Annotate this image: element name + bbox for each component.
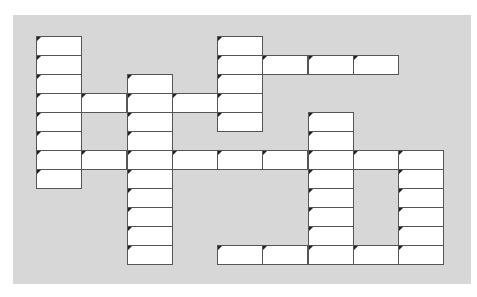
grid-cell[interactable] [127, 245, 173, 265]
grid-cell[interactable] [127, 207, 173, 227]
grid-cell[interactable] [127, 188, 173, 208]
grid-cell[interactable] [36, 74, 82, 94]
corner-marker-icon [309, 132, 313, 136]
corner-marker-icon [128, 94, 132, 98]
corner-marker-icon [128, 132, 132, 136]
corner-marker-icon [309, 170, 313, 174]
grid-cell[interactable] [398, 226, 444, 246]
corner-marker-icon [82, 94, 86, 98]
grid-cell[interactable] [217, 112, 263, 132]
corner-marker-icon [309, 227, 313, 231]
grid-cell[interactable] [127, 131, 173, 151]
corner-marker-icon [399, 189, 403, 193]
corner-marker-icon [218, 151, 222, 155]
grid-cell[interactable] [308, 188, 354, 208]
grid-cell[interactable] [127, 93, 173, 113]
grid-cell[interactable] [81, 93, 127, 113]
grid-cell[interactable] [398, 245, 444, 265]
corner-marker-icon [354, 246, 358, 250]
grid-cell[interactable] [353, 245, 399, 265]
corner-marker-icon [354, 151, 358, 155]
corner-marker-icon [37, 151, 41, 155]
grid-cell[interactable] [81, 150, 127, 170]
grid-cell[interactable] [127, 112, 173, 132]
corner-marker-icon [128, 151, 132, 155]
grid-cell[interactable] [172, 93, 218, 113]
corner-marker-icon [218, 56, 222, 60]
grid-cell[interactable] [262, 245, 308, 265]
grid-cell[interactable] [353, 150, 399, 170]
corner-marker-icon [128, 113, 132, 117]
grid-cell[interactable] [217, 74, 263, 94]
grid-cell[interactable] [308, 207, 354, 227]
grid-cell[interactable] [398, 188, 444, 208]
corner-marker-icon [128, 170, 132, 174]
grid-cell[interactable] [308, 226, 354, 246]
corner-marker-icon [128, 227, 132, 231]
corner-marker-icon [128, 246, 132, 250]
grid-cell[interactable] [36, 36, 82, 56]
corner-marker-icon [309, 189, 313, 193]
grid-cell[interactable] [398, 169, 444, 189]
corner-marker-icon [128, 75, 132, 79]
grid-cell[interactable] [308, 245, 354, 265]
grid-cell[interactable] [308, 131, 354, 151]
corner-marker-icon [173, 151, 177, 155]
grid-cell[interactable] [36, 112, 82, 132]
grid-cell[interactable] [262, 55, 308, 75]
grid-cell[interactable] [262, 150, 308, 170]
corner-marker-icon [218, 94, 222, 98]
corner-marker-icon [173, 94, 177, 98]
corner-marker-icon [37, 132, 41, 136]
grid-cell[interactable] [217, 150, 263, 170]
corner-marker-icon [218, 75, 222, 79]
corner-marker-icon [263, 56, 267, 60]
corner-marker-icon [399, 151, 403, 155]
grid-cell[interactable] [308, 169, 354, 189]
grid-cell[interactable] [398, 150, 444, 170]
corner-marker-icon [37, 113, 41, 117]
corner-marker-icon [309, 208, 313, 212]
grid-cell[interactable] [217, 55, 263, 75]
corner-marker-icon [263, 151, 267, 155]
corner-marker-icon [309, 246, 313, 250]
corner-marker-icon [309, 56, 313, 60]
grid-cell[interactable] [308, 150, 354, 170]
grid-cell[interactable] [172, 150, 218, 170]
corner-marker-icon [37, 56, 41, 60]
corner-marker-icon [309, 151, 313, 155]
corner-marker-icon [399, 170, 403, 174]
corner-marker-icon [354, 56, 358, 60]
grid-cell[interactable] [36, 169, 82, 189]
grid-cell[interactable] [127, 226, 173, 246]
grid-cell[interactable] [127, 74, 173, 94]
corner-marker-icon [218, 246, 222, 250]
grid-cell[interactable] [127, 150, 173, 170]
corner-marker-icon [82, 151, 86, 155]
corner-marker-icon [399, 208, 403, 212]
grid-cell[interactable] [217, 93, 263, 113]
grid-cell[interactable] [36, 93, 82, 113]
corner-marker-icon [128, 189, 132, 193]
grid-cell[interactable] [36, 55, 82, 75]
corner-marker-icon [263, 246, 267, 250]
corner-marker-icon [37, 94, 41, 98]
grid-cell[interactable] [36, 131, 82, 151]
corner-marker-icon [37, 170, 41, 174]
corner-marker-icon [399, 227, 403, 231]
grid-cell[interactable] [398, 207, 444, 227]
grid-cell[interactable] [308, 112, 354, 132]
corner-marker-icon [218, 37, 222, 41]
corner-marker-icon [218, 113, 222, 117]
corner-marker-icon [399, 246, 403, 250]
corner-marker-icon [309, 113, 313, 117]
grid-cell[interactable] [353, 55, 399, 75]
grid-cell[interactable] [127, 169, 173, 189]
corner-marker-icon [37, 37, 41, 41]
corner-marker-icon [37, 75, 41, 79]
grid-cell[interactable] [217, 36, 263, 56]
grid-cell[interactable] [308, 55, 354, 75]
grid-cell[interactable] [217, 245, 263, 265]
grid-cell[interactable] [36, 150, 82, 170]
corner-marker-icon [128, 208, 132, 212]
